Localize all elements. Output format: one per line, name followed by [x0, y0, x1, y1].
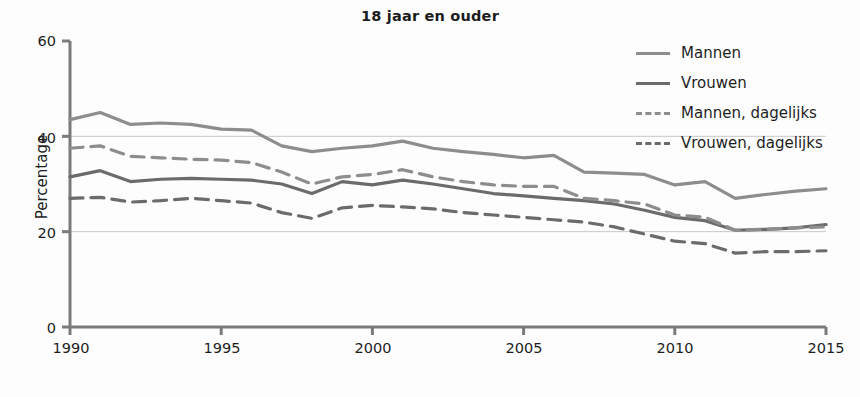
chart-page: 18 jaar en ouder Percentage 60 40 20 0 1… — [0, 0, 860, 397]
legend-swatch-mannen-icon — [636, 44, 670, 63]
legend-item-vrouwen-dagelijks[interactable]: Vrouwen, dagelijks — [636, 134, 823, 153]
chart-legend: Mannen Vrouwen Mannen, dagelijks Vrouwen… — [636, 44, 823, 153]
legend-swatch-vrouwen-icon — [636, 74, 670, 93]
legend-item-mannen[interactable]: Mannen — [636, 44, 823, 63]
legend-item-mannen-dagelijks[interactable]: Mannen, dagelijks — [636, 104, 823, 123]
legend-label-mannen: Mannen — [681, 44, 741, 63]
legend-label-vrouwen-dagelijks: Vrouwen, dagelijks — [681, 134, 823, 153]
legend-swatch-mannen-dagelijks-icon — [636, 104, 670, 123]
legend-label-vrouwen: Vrouwen — [681, 74, 747, 93]
legend-item-vrouwen[interactable]: Vrouwen — [636, 74, 823, 93]
legend-swatch-vrouwen-dagelijks-icon — [636, 134, 670, 153]
legend-label-mannen-dagelijks: Mannen, dagelijks — [681, 104, 817, 123]
